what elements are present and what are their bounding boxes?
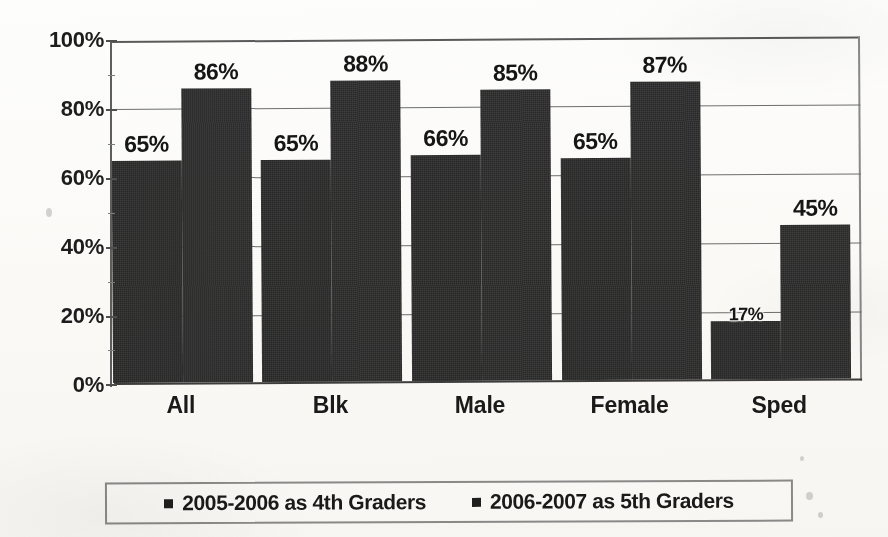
y-major-tick-80 (106, 109, 117, 111)
y-minor-tick-10 (108, 350, 115, 351)
bar-group: 65%88% (260, 39, 402, 382)
x-tick-label-all: All (166, 392, 195, 419)
bars-layer: 65%86%65%88%66%85%65%87%17%45% (112, 36, 862, 385)
y-major-tick-100 (106, 40, 117, 42)
bar-sped-series-1[interactable]: 17% (711, 321, 781, 380)
legend-label-series-1: 2005-2006 as 4th Graders (182, 490, 426, 515)
x-tick-label-female: Female (591, 392, 669, 419)
y-minor-tick-90 (108, 75, 115, 76)
bar-blk-series-1[interactable]: 65% (261, 159, 332, 382)
y-tick-label-0: 0% (73, 372, 104, 398)
bar-value-label: 65% (573, 128, 618, 155)
plot-area: 65%86%65%88%66%85%65%87%17%45% (112, 36, 862, 385)
bar-value-label: 65% (274, 129, 319, 156)
y-major-tick-40 (106, 247, 117, 249)
y-major-tick-20 (106, 316, 117, 318)
y-major-tick-60 (106, 178, 117, 180)
scan-speck (46, 208, 52, 217)
bar-blk-series-2[interactable]: 88% (331, 80, 403, 381)
bar-male-series-2[interactable]: 85% (480, 90, 552, 381)
scan-speck (800, 456, 804, 461)
bar-sped-series-2[interactable]: 45% (780, 225, 851, 379)
bar-group: 66%85% (410, 38, 552, 381)
legend-entry-series-1: 2005-2006 as 4th Graders (164, 490, 426, 515)
x-tick-label-sped: Sped (751, 392, 806, 419)
bar-male-series-1[interactable]: 66% (411, 155, 482, 381)
y-minor-tick-30 (108, 282, 115, 283)
chart-legend: 2005-2006 as 4th Graders 2006-2007 as 5t… (105, 479, 793, 524)
bar-value-label: 87% (642, 52, 687, 79)
y-major-tick-0 (106, 384, 117, 386)
bar-value-label: 86% (194, 58, 239, 85)
y-minor-tick-70 (108, 144, 115, 145)
y-minor-tick-50 (108, 213, 115, 214)
y-tick-label-40: 40% (61, 234, 104, 260)
legend-square-marker-icon (472, 497, 481, 506)
bar-female-series-2[interactable]: 87% (630, 82, 702, 380)
y-tick-label-80: 80% (61, 96, 104, 122)
bar-value-label: 85% (493, 60, 538, 87)
scan-speck (818, 512, 823, 518)
chart-screenshot: 100% 80% 60% 40% 20% 0% 65%86%65%88%66%8… (0, 0, 888, 537)
legend-label-series-2: 2006-2007 as 5th Graders (490, 489, 734, 514)
y-tick-label-100: 100% (49, 27, 104, 53)
legend-square-marker-icon (164, 499, 173, 508)
x-tick-label-male: Male (455, 392, 505, 419)
legend-entry-series-2: 2006-2007 as 5th Graders (472, 489, 734, 514)
bar-female-series-1[interactable]: 65% (560, 158, 631, 381)
bar-group: 17%45% (709, 36, 851, 379)
bar-group: 65%86% (111, 40, 253, 383)
bar-value-label: 88% (343, 50, 388, 77)
bar-value-label: 45% (793, 195, 838, 222)
bar-value-label: 17% (729, 304, 764, 325)
bar-value-label: 66% (423, 125, 468, 152)
bar-all-series-1[interactable]: 65% (112, 160, 183, 383)
y-tick-label-20: 20% (61, 303, 104, 329)
x-tick-label-blk: Blk (313, 392, 348, 419)
bar-all-series-2[interactable]: 86% (181, 88, 253, 383)
bar-group: 65%87% (560, 37, 702, 380)
scan-speck (806, 492, 813, 500)
bar-value-label: 65% (124, 130, 169, 157)
x-axis-labels: AllBlkMaleFemaleSped (112, 392, 860, 432)
y-tick-label-60: 60% (61, 165, 104, 191)
y-axis-labels: 100% 80% 60% 40% 20% 0% (0, 0, 104, 420)
